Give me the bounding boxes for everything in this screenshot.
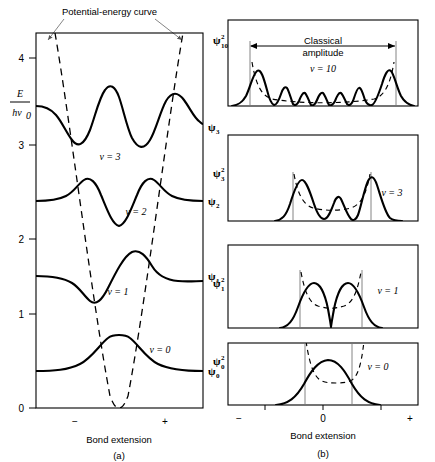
probability-density-v3 [275,177,402,221]
y-tick-1: 1 [18,309,24,320]
figure-svg: Potential-energy curve 0 1 2 3 4 E hν 0 [0,0,435,462]
psi-superscript-10: 2 [221,33,225,41]
panel-b-plot-v3: v = 3 ψ 2 3 [213,135,418,221]
annotation-leader-right [155,19,182,40]
psi-squared-label-3: ψ 2 3 [213,166,225,183]
psi-symbol-3: ψ [208,121,216,133]
classical-envelope-v3 [294,174,370,210]
level-label-v0: v = 0 [149,344,170,355]
panel-b-x-tick-minus: − [236,413,242,424]
psi-label-3: ψ 3 [208,121,220,136]
potential-energy-annotation: Potential-energy curve [62,6,157,17]
psi-symbol-b0: ψ [213,355,221,367]
psi-subscript-0: 0 [216,372,220,380]
panel-a-x-tick-plus: + [162,416,168,427]
psi-subscript-3: 3 [216,128,220,136]
panel-b-x-axis-label: Bond extension [290,430,356,441]
psi-squared-label-1: ψ 2 1 [213,276,225,293]
panel-b-x-tick-plus: + [407,413,413,424]
panel-b-x-tick-zero: 0 [320,413,326,424]
panel-b-plot-v0: v = 0 ψ 2 0 [213,341,418,405]
panel-b-caption: (b) [317,448,329,459]
panel-b: Classical amplitude v = 10 ψ 2 10 v = 3 [213,20,418,459]
panel-b-frame-v3 [228,135,418,221]
panel-a-x-tick-minus: − [72,416,78,427]
panel-a: Potential-energy curve 0 1 2 3 4 E hν 0 [10,6,220,461]
wavefunction-v3 [36,86,203,147]
psi-label-2: ψ 2 [208,195,220,210]
y-tick-2: 2 [18,234,24,245]
psi-symbol-b1: ψ [213,277,221,289]
probability-density-v1 [280,283,382,328]
probability-density-v0 [276,360,380,405]
plot-label-v1: v = 1 [377,285,398,296]
wavefunction-v0 [36,335,203,371]
classical-envelope-v1 [301,272,361,308]
wavefunction-v2 [36,179,203,226]
y-axis-label: E hν 0 [10,88,31,121]
psi-label-0: ψ 0 [208,365,220,380]
psi-symbol-10: ψ [213,34,221,46]
panel-a-caption: (a) [113,450,125,461]
psi-superscript-b3: 2 [221,166,225,174]
plot-label-v0: v = 0 [367,361,388,372]
classical-amplitude-label-line1: Classical [304,35,342,46]
psi-symbol-2: ψ [208,195,216,207]
psi-superscript-b1: 2 [221,276,225,284]
y-tick-3: 3 [18,140,24,151]
panel-b-plot-v10: Classical amplitude v = 10 ψ 2 10 [213,20,418,106]
y-axis-label-numerator: E [16,88,23,99]
panel-b-frame-v0 [228,343,418,405]
level-label-v3: v = 3 [99,151,120,162]
y-tick-0: 0 [18,403,24,414]
y-tick-4: 4 [18,53,24,64]
panel-a-frame [36,33,203,408]
psi-subscript-b1: 1 [221,285,225,293]
psi-squared-label-10: ψ 2 10 [213,33,229,50]
panel-b-x-axis: − 0 + Bond extension (b) [236,405,413,459]
y-axis-label-denominator-sub: 0 [26,110,31,121]
classical-amplitude-label-line2: amplitude [302,47,343,58]
plot-label-v3: v = 3 [381,187,402,198]
level-label-v1: v = 1 [107,286,128,297]
panel-a-x-axis-label: Bond extension [86,434,152,445]
psi-superscript-b0: 2 [221,354,225,362]
psi-subscript-b3: 3 [221,175,225,183]
level-label-v2: v = 2 [125,206,146,217]
psi-subscript-b0: 0 [221,363,225,371]
psi-subscript-2: 2 [216,202,220,210]
y-axis-label-denominator: hν [12,107,22,118]
figure-container: Potential-energy curve 0 1 2 3 4 E hν 0 [0,0,435,462]
plot-label-v10: v = 10 [310,63,336,74]
psi-symbol-b3: ψ [213,167,221,179]
panel-b-plot-v1: v = 1 ψ 2 1 [213,245,418,328]
psi-subscript-10: 10 [221,42,229,50]
